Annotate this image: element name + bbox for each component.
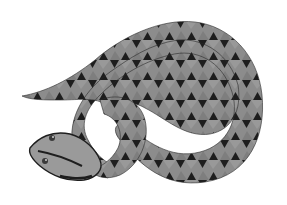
snake-head [30, 133, 101, 180]
illustration-canvas [0, 0, 287, 205]
eye-highlight [45, 159, 47, 161]
snake-illustration [0, 0, 287, 205]
eye-highlight [52, 136, 54, 138]
eye-icon [49, 135, 55, 141]
eye-icon [42, 158, 48, 164]
